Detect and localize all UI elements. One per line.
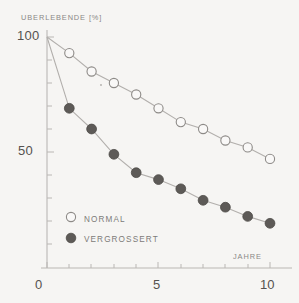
data-point-marker xyxy=(132,90,141,99)
y-axis-title: UBERLEBENDE [%] xyxy=(21,13,102,22)
data-point-marker xyxy=(221,202,231,212)
y-axis-tick-label-50: 50 xyxy=(18,143,33,158)
y-axis-tick-label-100: 100 xyxy=(17,28,40,43)
data-point-marker xyxy=(176,118,185,127)
x-axis-ticks xyxy=(47,262,270,268)
scan-speck-artifact xyxy=(100,84,102,86)
series-line xyxy=(47,37,270,159)
data-point-marker xyxy=(87,67,96,76)
legend-marker-normal xyxy=(66,212,75,221)
series-normal xyxy=(47,37,275,163)
series-vergroessert xyxy=(47,37,275,228)
legend-label-vergroessert: VERGROSSERT xyxy=(84,235,159,244)
x-axis-title: JAHRE xyxy=(233,252,262,261)
x-axis-tick-label-0: 0 xyxy=(35,277,42,292)
data-point-marker xyxy=(176,184,186,194)
data-point-marker xyxy=(243,212,253,222)
data-point-marker xyxy=(265,218,275,228)
data-point-marker xyxy=(198,195,208,205)
data-point-marker xyxy=(154,104,163,113)
series-line xyxy=(47,37,270,223)
data-point-marker xyxy=(109,149,119,159)
y-axis-ticks xyxy=(47,37,54,244)
legend-marker-vergroessert xyxy=(66,233,76,243)
data-point-marker xyxy=(64,103,74,113)
legend-label-normal: NORMAL xyxy=(84,215,126,224)
data-point-marker xyxy=(131,168,141,178)
data-point-marker xyxy=(109,78,118,87)
data-point-marker xyxy=(87,124,97,134)
survival-curve-figure: UBERLEBENDE [%] 100 50 0 5 10 JAHRE NORM… xyxy=(0,0,299,303)
x-axis-tick-label-10: 10 xyxy=(260,277,274,292)
data-point-marker xyxy=(154,175,164,185)
data-point-marker xyxy=(221,136,230,145)
data-point-marker xyxy=(265,154,274,163)
x-axis-tick-label-5: 5 xyxy=(153,277,160,292)
axis-lines xyxy=(41,30,292,268)
data-point-marker xyxy=(65,49,74,58)
data-point-marker xyxy=(243,143,252,152)
data-point-marker xyxy=(199,124,208,133)
